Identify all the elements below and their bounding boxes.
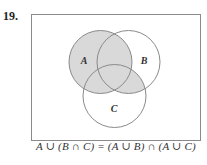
label-b: B — [140, 55, 148, 66]
label-c: C — [111, 103, 118, 114]
label-a: A — [80, 55, 88, 66]
equation-caption: A ∪ (B ∩ C) = (A ∪ B) ∩ (A ∪ C) — [32, 140, 200, 153]
